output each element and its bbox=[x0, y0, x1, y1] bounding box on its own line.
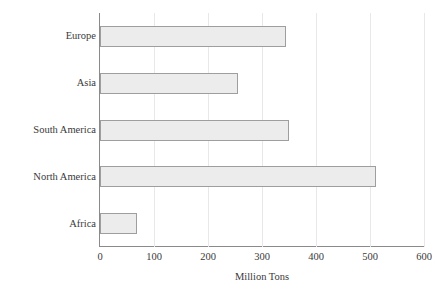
gridline-600 bbox=[424, 13, 425, 247]
category-label-asia: Asia bbox=[0, 77, 96, 89]
plot-area bbox=[100, 13, 424, 247]
gridline-500 bbox=[370, 13, 371, 247]
bar-africa[interactable] bbox=[100, 213, 137, 234]
x-axis-title: Million Tons bbox=[100, 270, 424, 283]
x-tick-label-400: 400 bbox=[296, 250, 336, 263]
x-tick-label-200: 200 bbox=[188, 250, 228, 263]
category-label-africa: Africa bbox=[0, 218, 96, 230]
x-tick-label-0: 0 bbox=[80, 250, 120, 263]
bar-south-america[interactable] bbox=[100, 120, 289, 141]
bar-asia[interactable] bbox=[100, 73, 238, 94]
gridline-400 bbox=[316, 13, 317, 247]
x-tick-label-600: 600 bbox=[404, 250, 443, 263]
x-tick-label-300: 300 bbox=[242, 250, 282, 263]
bar-chart: EuropeAsiaSouth AmericaNorth AmericaAfri… bbox=[0, 0, 443, 296]
x-tick-label-500: 500 bbox=[350, 250, 390, 263]
category-label-europe: Europe bbox=[0, 30, 96, 42]
bar-north-america[interactable] bbox=[100, 166, 376, 187]
category-label-north-america: North America bbox=[0, 171, 96, 183]
category-label-south-america: South America bbox=[0, 124, 96, 136]
bar-europe[interactable] bbox=[100, 26, 286, 47]
x-tick-label-100: 100 bbox=[134, 250, 174, 263]
